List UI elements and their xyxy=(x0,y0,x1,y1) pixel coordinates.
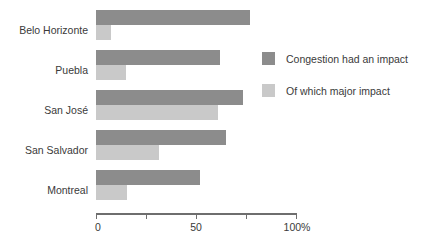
legend-swatch-minor xyxy=(262,84,275,97)
bar-major xyxy=(96,10,250,25)
bar-chart: Belo Horizonte Puebla San José San Salva… xyxy=(0,0,430,250)
bar-minor xyxy=(96,25,111,40)
axis-tick xyxy=(96,213,97,219)
legend-item-minor: Of which major impact xyxy=(262,84,390,97)
bar-minor xyxy=(96,65,126,80)
axis-tick xyxy=(246,213,247,219)
category-label: San Salvador xyxy=(0,144,88,156)
bar-major xyxy=(96,90,243,105)
bar-major xyxy=(96,170,200,185)
bar-minor xyxy=(96,105,218,120)
x-axis xyxy=(96,213,296,215)
bar-minor xyxy=(96,145,159,160)
axis-tick xyxy=(196,213,197,219)
category-label: Montreal xyxy=(0,184,88,196)
axis-tick-label: 50 xyxy=(190,221,202,233)
bar-major xyxy=(96,50,220,65)
legend-swatch-major xyxy=(262,52,275,65)
axis-tick xyxy=(296,213,297,219)
category-label: Belo Horizonte xyxy=(0,24,88,36)
axis-tick-label: 0 xyxy=(95,221,101,233)
legend-label: Of which major impact xyxy=(286,85,390,97)
bar-major xyxy=(96,130,226,145)
category-label: San José xyxy=(0,104,88,116)
axis-tick-label: 100% xyxy=(284,221,311,233)
axis-tick xyxy=(146,213,147,219)
bar-minor xyxy=(96,185,127,200)
legend-item-major: Congestion had an impact xyxy=(262,52,408,65)
legend-label: Congestion had an impact xyxy=(286,53,408,65)
category-label: Puebla xyxy=(0,64,88,76)
plot-area xyxy=(96,0,296,212)
